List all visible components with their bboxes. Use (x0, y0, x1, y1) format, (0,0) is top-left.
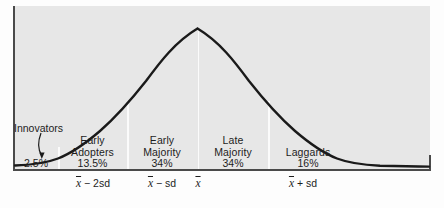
axis-tick-suffix: + sd (294, 177, 317, 189)
y-axis-line (13, 6, 15, 171)
segment-label-early-majority: Early Majority (127, 134, 197, 158)
axis-tick-label-x-minus-2sd: x − 2sd (58, 177, 128, 189)
segment-label-line1: Early (150, 134, 174, 146)
segment-percent-innovators: 2.5% (14, 157, 58, 169)
adopter-categorization-figure: Innovators Early Adopters Early Majority… (0, 0, 444, 208)
segment-percent-early-adopters: 13.5% (58, 157, 127, 169)
axis-tick-label-x-mean: x (163, 177, 233, 189)
segment-percent-early-majority: 34% (127, 157, 197, 169)
segment-percent-laggards: 16% (268, 157, 348, 169)
x-axis-line (13, 169, 431, 171)
segment-label-line1: Early (80, 134, 104, 146)
x-axis-right-tick (429, 155, 431, 171)
segment-label-line1: Late (223, 134, 244, 146)
segment-label-late-majority: Late Majority (198, 134, 268, 158)
segment-percent-late-majority: 34% (198, 157, 268, 169)
axis-tick-suffix: − 2sd (81, 177, 110, 189)
x-bar-symbol: x (195, 177, 200, 189)
innovators-callout-label: Innovators (14, 122, 63, 134)
axis-tick-label-x-plus-sd: x + sd (268, 177, 338, 189)
segment-label-early-adopters: Early Adopters (58, 134, 127, 158)
